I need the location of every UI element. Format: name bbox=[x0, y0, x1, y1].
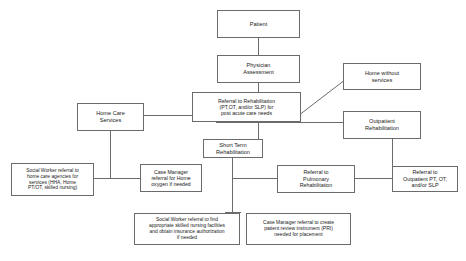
node-referral-to-rehabilitation[interactable]: Referral to Rehabilitation (PT,OT, and/o… bbox=[192, 92, 301, 122]
node-home-without-services[interactable]: Home without services bbox=[343, 63, 421, 90]
node-social-worker-home-care-referral-label: Social Worker referral to home care agen… bbox=[14, 168, 91, 191]
node-patient-label: Patient bbox=[220, 21, 297, 28]
node-case-manager-pri-referral[interactable]: Case Manager referral to create patient … bbox=[246, 213, 351, 245]
node-short-term-rehabilitation[interactable]: Short Term Rehabilitation bbox=[203, 139, 263, 158]
node-referral-to-rehabilitation-label: Referral to Rehabilitation (PT,OT, and/o… bbox=[195, 98, 298, 116]
node-referral-outpatient-pt-ot-slp-label: Referral to Outpatient PT, OT, and/or SL… bbox=[395, 169, 455, 188]
node-patient[interactable]: Patient bbox=[217, 10, 300, 38]
connector-referral-to-home-without-services bbox=[301, 81, 344, 114]
node-home-care-services[interactable]: Home Care Services bbox=[77, 103, 144, 131]
node-case-manager-home-oxygen-label: Case Manager referral for Home oxygen if… bbox=[143, 169, 199, 187]
flowchart-canvas: Patient Physician Assessment Referral to… bbox=[0, 0, 466, 261]
node-home-care-services-label: Home Care Services bbox=[80, 110, 141, 123]
node-home-without-services-label: Home without services bbox=[346, 70, 418, 83]
node-physician-assessment-label: Physician Assessment bbox=[220, 62, 297, 75]
node-referral-pulmonary-rehabilitation-label: Referral to Pulmonary Rehabilitation bbox=[280, 169, 352, 188]
node-social-worker-home-care-referral[interactable]: Social Worker referral to home care agen… bbox=[11, 163, 94, 196]
node-social-worker-snf-referral[interactable]: Social Worker referral to find appropria… bbox=[134, 213, 240, 245]
node-outpatient-rehabilitation[interactable]: Outpatient Rehabilitation bbox=[343, 111, 421, 139]
node-referral-pulmonary-rehabilitation[interactable]: Referral to Pulmonary Rehabilitation bbox=[277, 165, 355, 193]
node-case-manager-home-oxygen[interactable]: Case Manager referral for Home oxygen if… bbox=[140, 164, 202, 192]
node-physician-assessment[interactable]: Physician Assessment bbox=[217, 55, 300, 83]
node-short-term-rehabilitation-label: Short Term Rehabilitation bbox=[206, 142, 260, 155]
node-outpatient-rehabilitation-label: Outpatient Rehabilitation bbox=[346, 118, 418, 131]
node-social-worker-snf-referral-label: Social Worker referral to find appropria… bbox=[137, 217, 237, 240]
node-case-manager-pri-referral-label: Case Manager referral to create patient … bbox=[249, 220, 348, 238]
node-referral-outpatient-pt-ot-slp[interactable]: Referral to Outpatient PT, OT, and/or SL… bbox=[392, 166, 458, 192]
